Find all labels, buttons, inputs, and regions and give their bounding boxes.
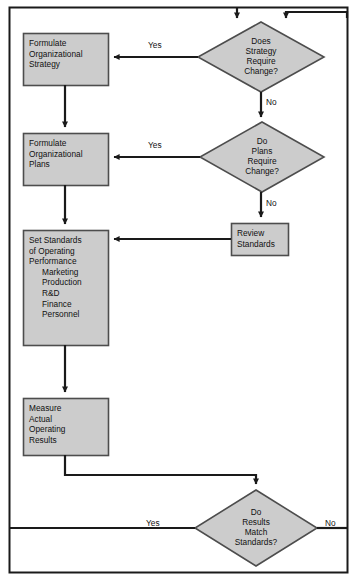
flowchart-canvas: Formulate Organizational StrategyFormula…: [0, 0, 357, 580]
edge-label-yes-strategy: Yes: [148, 40, 162, 50]
edge-label-yes-plans: Yes: [148, 140, 162, 150]
decision-node-results-match: [195, 490, 317, 566]
process-node-formulate-strategy: [24, 34, 109, 86]
edge-measure-to-results: [65, 455, 256, 484]
node-shapes: [24, 22, 325, 566]
edge-label-no-results: No: [325, 518, 336, 528]
process-node-set-standards: [24, 231, 109, 346]
edge-label-no-strategy: No: [266, 97, 277, 107]
edge-label-yes-results: Yes: [146, 518, 160, 528]
edge-label-no-plans: No: [266, 198, 277, 208]
process-node-measure-results: [24, 399, 109, 456]
process-node-formulate-plans: [24, 134, 109, 186]
decision-node-strategy-change: [198, 22, 324, 92]
process-node-review-standards: [232, 224, 289, 256]
flowchart-svg: [0, 0, 357, 580]
edge-no-results-return: [286, 12, 347, 18]
decision-node-plans-change: [200, 122, 324, 192]
